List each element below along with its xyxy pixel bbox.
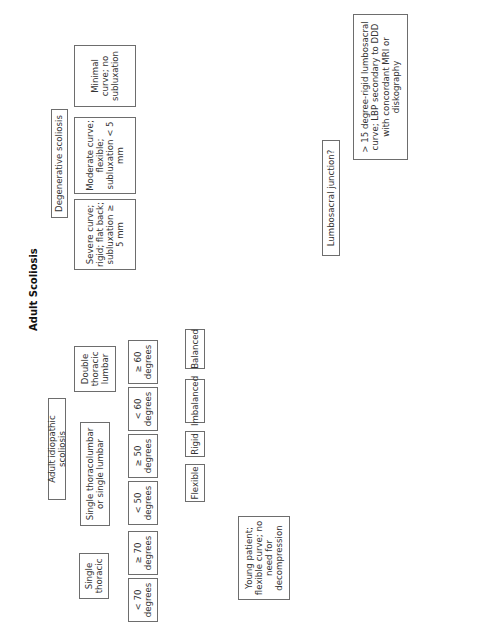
node-imbalanced: Imbalanced <box>185 379 205 423</box>
node-tl-ge50: ≥ 50 degrees <box>128 434 158 478</box>
flowchart-stage: Adult Scoliosis Adult idiopathic scolios… <box>0 0 483 629</box>
node-label: Single thoracic <box>84 556 104 596</box>
node-label: Balanced <box>190 329 200 369</box>
node-label: Adult idiopathic scoliosis <box>47 401 67 497</box>
node-lumbosacral-junction: Lumbosacral junction? <box>322 140 340 256</box>
node-label: Double thoracic lumbar <box>80 349 111 389</box>
node-single-thoracolumbar: Single thoracolumbar or single lumbar <box>80 422 110 526</box>
node-double-ge60: ≥ 60 degrees <box>128 340 158 384</box>
node-degenerative-scoliosis: Degenerative scoliosis <box>51 109 68 218</box>
node-single-thoracic-lt70: < 70 degrees <box>128 578 158 622</box>
node-flexible: Flexible <box>185 464 205 502</box>
node-label: ≥ 50 degrees <box>133 437 153 475</box>
node-label: Single thoracolumbar or single lumbar <box>85 425 105 523</box>
node-label: < 60 degrees <box>133 390 153 428</box>
node-rigid-lumbosacral-curve: > 15 degree-rigid lumbosacral curve; LBP… <box>353 14 408 160</box>
node-rigid: Rigid <box>185 431 205 457</box>
node-label: ≥ 60 degrees <box>133 343 153 381</box>
node-label: Flexible <box>190 466 200 499</box>
node-label: > 15 degree-rigid lumbosacral curve; LBP… <box>360 17 401 157</box>
node-label: Minimal curve; no subluxation <box>90 48 121 104</box>
node-double-thoracic-lumbar: Double thoracic lumbar <box>74 346 116 392</box>
root-node-adult-scoliosis: Adult Scoliosis <box>28 248 39 331</box>
node-label: Imbalanced <box>190 376 200 426</box>
node-severe-curve: Severe curve; rigid; flat back; subluxat… <box>74 199 136 270</box>
node-moderate-curve: Moderate curve; flexible; subluxation < … <box>74 117 136 194</box>
node-tl-lt50: < 50 degrees <box>128 481 158 525</box>
node-label: < 70 degrees <box>133 581 153 619</box>
node-label: Young patient; flexible curve; no need f… <box>244 519 285 597</box>
node-label: Severe curve; rigid; flat back; subluxat… <box>85 202 126 267</box>
node-label: Rigid <box>190 433 200 455</box>
node-minimal-curve: Minimal curve; no subluxation <box>74 45 136 107</box>
node-young-patient: Young patient; flexible curve; no need f… <box>238 516 290 600</box>
node-label: Moderate curve; flexible; subluxation < … <box>85 120 126 191</box>
node-single-thoracic-ge70: ≥ 70 degrees <box>128 531 158 575</box>
node-double-lt60: < 60 degrees <box>128 387 158 431</box>
node-balanced: Balanced <box>185 329 205 369</box>
node-label: Lumbosacral junction? <box>326 150 336 247</box>
node-label: Degenerative scoliosis <box>54 115 64 212</box>
node-label: ≥ 70 degrees <box>133 534 153 572</box>
node-adult-idiopathic-scoliosis: Adult idiopathic scoliosis <box>48 398 66 500</box>
node-single-thoracic: Single thoracic <box>79 553 109 599</box>
node-label: < 50 degrees <box>133 484 153 522</box>
